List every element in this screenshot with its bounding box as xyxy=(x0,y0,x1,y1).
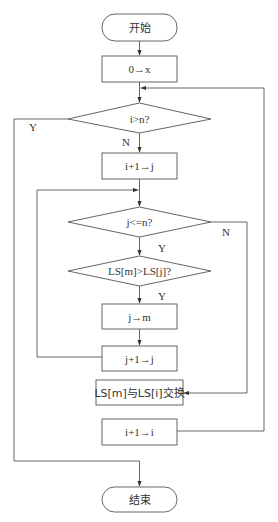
decision-j-le-n: j<=n? xyxy=(68,207,211,237)
arrowhead-icon xyxy=(138,250,142,256)
end-terminator: 结束 xyxy=(102,487,177,512)
end-label: 结束 xyxy=(129,494,151,507)
arrowhead-icon xyxy=(138,147,142,153)
arrowhead-icon xyxy=(138,481,142,487)
inc-j-label: j+1→j xyxy=(124,353,154,365)
decision-i-gt-n-label: i>n? xyxy=(130,113,150,125)
swap-box: LS[m]与LS[i]交换 xyxy=(94,380,184,405)
branch-label-yes: Y xyxy=(29,121,37,133)
assign-m-label: j→m xyxy=(127,311,151,323)
start-terminator: 开始 xyxy=(102,14,177,41)
inc-j-box: j+1→j xyxy=(102,346,177,371)
decision-compare-label: LS[m]>LS[j]? xyxy=(108,265,171,277)
decision-i-gt-n: i>n? xyxy=(68,103,211,133)
arrowhead-icon xyxy=(138,97,142,103)
assign-j-label: i+1→j xyxy=(125,160,154,172)
connector-no-to-swap xyxy=(187,222,247,393)
inc-i-box: i+1→i xyxy=(102,419,177,445)
decision-j-le-n-label: j<=n? xyxy=(126,216,153,228)
arrowhead-icon xyxy=(133,188,139,192)
branch-label-no: N xyxy=(222,226,230,238)
assign-m-box: j→m xyxy=(102,304,177,329)
arrowhead-icon xyxy=(138,50,142,56)
connector-outer-loop xyxy=(144,88,264,431)
decision-compare: LS[m]>LS[j]? xyxy=(68,256,211,286)
swap-label: LS[m]与LS[i]交换 xyxy=(94,386,184,400)
branch-label-yes: Y xyxy=(158,242,166,254)
arrowhead-icon xyxy=(138,201,142,207)
arrowhead-icon xyxy=(138,298,142,304)
branch-label-yes: Y xyxy=(158,290,166,302)
init-x-box: 0→x xyxy=(102,56,177,82)
arrowhead-icon xyxy=(140,86,146,90)
flowchart-canvas: 开始 0→x i>n? Y N i+1→j j<=n? N Y LS[m] xyxy=(0,0,278,522)
branch-label-no: N xyxy=(122,136,130,148)
start-label: 开始 xyxy=(129,21,151,35)
arrowhead-icon xyxy=(138,340,142,346)
init-x-label: 0→x xyxy=(129,63,152,75)
inc-i-label: i+1→i xyxy=(125,426,154,438)
assign-j-box: i+1→j xyxy=(102,153,177,179)
